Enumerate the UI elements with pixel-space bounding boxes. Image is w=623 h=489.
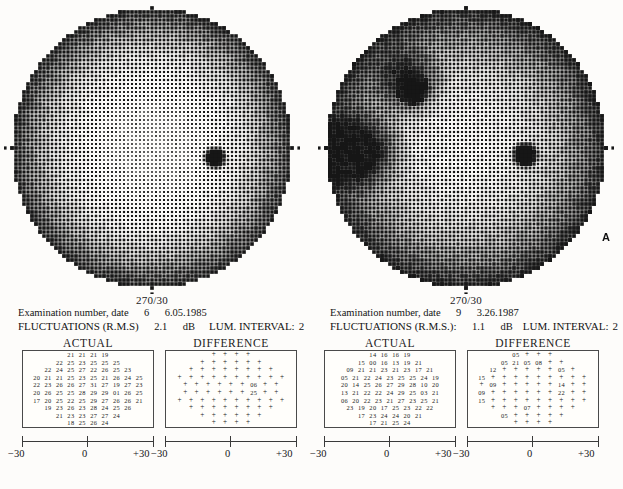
grid-cell-value: 25 xyxy=(111,366,122,374)
grid-cell-value: 23 xyxy=(65,412,76,420)
grid-cell-plus: + xyxy=(510,419,521,427)
exam-number-date-label-right: Examination number, date xyxy=(330,306,441,319)
lum-interval-value-left: 2 xyxy=(295,319,305,333)
actual-title-left: ACTUAL xyxy=(22,337,154,349)
grid-cell-value: 19 xyxy=(356,404,367,412)
grid-cell-value: 10 xyxy=(418,381,429,389)
grid-row: 062022232127232521 xyxy=(325,397,455,405)
grid-cell-value: 20 xyxy=(350,397,361,405)
difference-panel-left: DIFFERENCE +++++++++++++++++++++++++++++… xyxy=(165,337,297,463)
map-scale-label-left: 270/30 xyxy=(4,294,300,306)
grid-row: 132122222429250321 xyxy=(325,389,455,397)
grid-cell-value: 19 xyxy=(111,381,122,389)
grid-cell-value: 22 xyxy=(362,374,373,382)
grid-cell-value: 23 xyxy=(373,397,384,405)
grid-cell-value: 21 xyxy=(88,351,99,359)
grid-cell-value: 19 xyxy=(99,351,110,359)
axis-label-zero: 0 xyxy=(225,448,230,459)
grid-row: 12+++++05+ xyxy=(468,366,598,374)
grid-row: 17202522252927262621 xyxy=(23,397,153,405)
grid-cell-value: 29 xyxy=(88,397,99,405)
grid-cell-plus: + xyxy=(522,397,533,405)
axis-tick-zero xyxy=(87,436,88,447)
grid-cell-value: 22 xyxy=(31,381,42,389)
axis-label-min: −30 xyxy=(453,448,469,459)
actual-axis-left: −30 0 +30 xyxy=(22,435,154,463)
grid-cell-value: 24 xyxy=(384,389,395,397)
grid-cell-value: 20 xyxy=(430,381,441,389)
grid-cell-plus: + xyxy=(533,351,544,359)
axis-label-zero: 0 xyxy=(82,448,87,459)
grid-cell-plus: + xyxy=(487,404,498,412)
exam-number-value-right: 9 xyxy=(441,306,477,319)
grid-row: 150016131921 xyxy=(325,359,455,367)
fluctuations-value-left: 2.1 xyxy=(139,320,183,333)
grid-cell-value: 25 xyxy=(65,374,76,382)
grid-cell-value: 29 xyxy=(396,381,407,389)
axis-tick-max xyxy=(455,436,456,447)
grid-cell-value: 23 xyxy=(77,412,88,420)
grid-cell-value: 23 xyxy=(401,404,412,412)
grid-cell-value: 26 xyxy=(373,381,384,389)
grid-row: ++++++++ xyxy=(166,404,296,412)
grid-cell-plus: + xyxy=(254,412,265,420)
grid-cell-value: 21 xyxy=(430,397,441,405)
grid-cell-value: 23 xyxy=(401,366,412,374)
exam-header-left: Examination number, date 6 6.05.1985 FLU… xyxy=(18,306,308,334)
grid-cell-value: 15 xyxy=(356,359,367,367)
grid-cell-value: 26 xyxy=(65,381,76,389)
grid-row: 212323272724 xyxy=(23,412,153,420)
grid-cell-value: 27 xyxy=(99,381,110,389)
grid-cell-value: 19 xyxy=(430,374,441,382)
grid-cell-value: 25 xyxy=(396,374,407,382)
grid-cell-value: 29 xyxy=(99,389,110,397)
exam-header-right: Examination number, date 9 3.26.1987 FLU… xyxy=(330,306,623,334)
grid-cell-value: 26 xyxy=(42,389,53,397)
grid-cell-value: 17 xyxy=(367,419,378,427)
grid-cell-value: 26 xyxy=(122,389,133,397)
grid-row: +++07++++ xyxy=(468,404,598,412)
grid-row: 14161619 xyxy=(325,351,455,359)
exam-number-value-left: 6 xyxy=(129,306,165,319)
grid-cell-plus: + xyxy=(231,419,242,427)
grid-cell-value: 21 xyxy=(350,389,361,397)
grid-cell-value: 05 xyxy=(339,374,350,382)
grid-cell-plus: + xyxy=(197,412,208,420)
grid-cell-value: 21 xyxy=(367,366,378,374)
perimetry-printout: 270/30 270/30 A Examination number, date… xyxy=(0,0,623,489)
lum-interval-label-left: LUM. INTERVAL: xyxy=(209,319,295,333)
difference-axis-left: −30 0 +30 xyxy=(165,435,297,463)
grid-cell-value: 29 xyxy=(88,389,99,397)
grid-row: 0921212321231721 xyxy=(325,366,455,374)
visual-field-map-left xyxy=(4,6,300,294)
grid-cell-value: 20 xyxy=(339,381,350,389)
difference-grid-left: ++++++++++++++++++++++++++++++++++06++++… xyxy=(165,350,297,428)
grid-cell-value: 27 xyxy=(396,397,407,405)
axis-line xyxy=(467,441,599,442)
grid-cell-value: 25 xyxy=(54,389,65,397)
grid-cell-value: 27 xyxy=(122,381,133,389)
grid-row: ++++ xyxy=(166,351,296,359)
grid-cell-value: 23 xyxy=(344,404,355,412)
grid-cell-plus: + xyxy=(556,359,567,367)
grid-row: ++++++ xyxy=(166,359,296,367)
grid-cell-value: 22 xyxy=(362,397,373,405)
grid-cell-value: 24 xyxy=(418,374,429,382)
grid-row: +09+++++14++ xyxy=(468,381,598,389)
grid-cell-value: 25 xyxy=(134,389,145,397)
grid-cell-value: 26 xyxy=(111,374,122,382)
grid-cell-value: 06 xyxy=(339,397,350,405)
grid-cell-value: 19 xyxy=(401,359,412,367)
fluctuations-value-right: 1.1 xyxy=(457,320,501,333)
grid-cell-value: 18 xyxy=(65,419,76,427)
grid-row: ++++++++ xyxy=(166,366,296,374)
grid-cell-value: 23 xyxy=(77,404,88,412)
grid-cell-value: 25 xyxy=(362,381,373,389)
grid-cell-value: 21 xyxy=(413,359,424,367)
grid-cell-value: 25 xyxy=(65,359,76,367)
grid-cell-value: 21 xyxy=(356,366,367,374)
axis-tick-zero xyxy=(532,436,533,447)
map-scale-label-right: 270/30 xyxy=(318,294,614,306)
grid-cell-plus: + xyxy=(277,397,288,405)
grid-row: 15+++++++++ xyxy=(468,397,598,405)
